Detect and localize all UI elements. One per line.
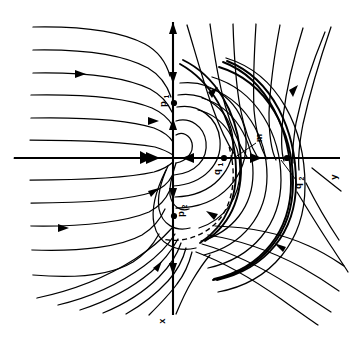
label-m: m: [253, 134, 264, 142]
phase-portrait-figure: p 1 p 2 q 1 q 2 m x y: [0, 0, 350, 338]
label-q2-subscript: 2: [298, 177, 305, 181]
label-m-text: m: [253, 134, 264, 142]
label-x-axis: x: [156, 318, 167, 324]
label-q1-subscript: 1: [217, 163, 224, 167]
label-q1-text: q: [211, 169, 222, 175]
label-x-axis-text: x: [156, 318, 167, 324]
label-y-axis: y: [328, 174, 339, 180]
label-p2-subscript: 2: [181, 205, 188, 209]
label-q2-text: q: [292, 183, 303, 189]
label-p2-text: p: [175, 211, 186, 217]
label-p1-subscript: 1: [163, 95, 170, 99]
point-p1-dot: [171, 100, 177, 106]
label-p1-text: p: [157, 101, 168, 107]
phase-portrait-canvas: p 1 p 2 q 1 q 2 m x y: [0, 0, 350, 338]
point-q1-dot: [221, 155, 227, 161]
point-q2-dot: [284, 155, 290, 161]
label-y-axis-text: y: [328, 174, 339, 180]
